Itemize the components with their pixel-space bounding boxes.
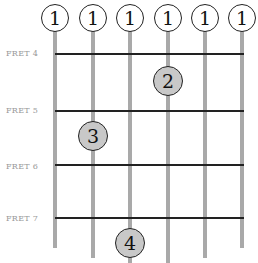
fret-label-6: FRET 6 [6,162,38,171]
finger-dot-2: 2 [153,66,183,96]
finger-dot-3: 3 [78,121,108,151]
fret-line-7 [55,217,244,219]
fret-label-5: FRET 5 [6,106,38,115]
open-marker-3: 1 [116,4,144,32]
open-marker-1: 1 [41,4,69,32]
open-marker-6: 1 [228,4,256,32]
string-1 [53,6,57,248]
fret-label-4: FRET 4 [6,49,38,58]
open-marker-4: 1 [154,4,182,32]
open-marker-5: 1 [191,4,219,32]
fret-line-6 [55,164,244,166]
string-3 [128,6,132,263]
finger-dot-4: 4 [115,228,145,258]
fret-label-7: FRET 7 [6,214,38,223]
string-6 [240,6,244,248]
string-5 [203,6,207,258]
fret-line-5 [55,110,244,112]
fret-line-4 [55,53,244,55]
string-4 [166,6,170,263]
open-marker-2: 1 [79,4,107,32]
